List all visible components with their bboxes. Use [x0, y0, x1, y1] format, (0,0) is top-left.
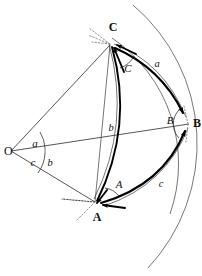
side-c-arrow-at-a	[103, 205, 125, 208]
central-angle-c-arc	[38, 153, 45, 173]
tangent-b-up	[184, 106, 188, 124]
central-side-b-label: b	[47, 157, 52, 168]
spherical-triangle-figure: O C B A a b c b a c C B A	[0, 0, 202, 276]
side-c-label: c	[159, 178, 164, 189]
vertex-b-label: B	[193, 116, 201, 130]
vertex-a-label: A	[93, 210, 102, 224]
side-b-mid-label: b	[108, 122, 113, 133]
side-a-label: a	[154, 58, 159, 69]
radius-oa	[11, 151, 95, 202]
central-angle-c-label: c	[31, 156, 36, 168]
angle-b-arc	[173, 110, 179, 138]
central-angle-a-label: a	[32, 137, 38, 149]
side-a-arc	[115, 48, 183, 113]
angle-c-label: C	[124, 62, 132, 74]
angle-b-label: B	[167, 114, 174, 126]
central-angle-arcs	[38, 132, 45, 173]
vertex-c-label: C	[109, 20, 118, 34]
sphere-outer-arc	[133, 5, 197, 268]
side-a-arc-light	[114, 44, 186, 117]
angle-a-label: A	[115, 178, 123, 190]
origin-label: O	[4, 144, 13, 158]
radius-oc	[11, 45, 110, 151]
